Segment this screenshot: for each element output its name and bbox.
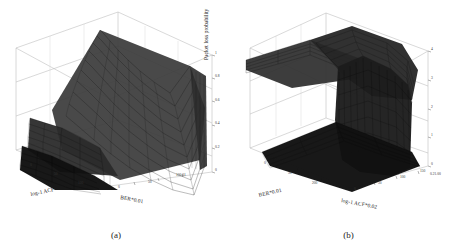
- xtick-b-left-1: 50: [288, 171, 292, 175]
- ztick-b-2: 2: [431, 105, 433, 109]
- figure-container: Packet loss probability log-1 ACF*0.02 B…: [0, 0, 465, 243]
- xtick-a-right-1: 50: [148, 180, 152, 184]
- xtick-b-left-0: 0: [264, 161, 266, 165]
- ztick-a-0: 0: [215, 168, 217, 172]
- xtick-a-right-2: 100.01: [176, 173, 186, 177]
- ztick-a-1: 0.2: [215, 145, 220, 149]
- xtick-b-right-0: 0: [354, 187, 356, 191]
- ztick-a-4: 0.8: [215, 74, 220, 78]
- mesh-surface-a: [20, 30, 207, 195]
- ztick-a-3: 0.6: [215, 98, 220, 102]
- mesh-surface-b: [246, 26, 420, 192]
- ztick-a-5: 1: [215, 51, 217, 55]
- xtick-a-right-0: 0: [118, 185, 120, 189]
- ztick-b-1: 1: [431, 133, 433, 137]
- panel-b: Packet delay BER*0.01 log-1 ACF*0.02 0 1…: [232, 0, 465, 243]
- surface-plot-b: [232, 0, 465, 243]
- ztick-marks-b: [428, 51, 431, 167]
- surface-plot-a: [0, 0, 232, 243]
- panel-caption-a: (a): [0, 230, 232, 240]
- ztick-b-4: 4: [431, 47, 433, 51]
- xtick-b-right-2: 100: [400, 175, 405, 179]
- xtick-b-right-1: 50: [378, 181, 382, 185]
- xtick-b-right-4: 0.21.00: [430, 172, 441, 176]
- ztick-marks-a: [212, 55, 215, 173]
- panel-a: Packet loss probability log-1 ACF*0.02 B…: [0, 0, 232, 243]
- xtick-b-right-3: 150: [420, 169, 425, 173]
- xtick-a-left-1: 50: [54, 172, 58, 176]
- ztick-b-0: 0: [431, 162, 433, 166]
- xtick-a-left-0: 0: [30, 163, 32, 167]
- panel-caption-b: (b): [232, 230, 465, 240]
- ztick-b-3: 3: [431, 76, 433, 80]
- xtick-a-left-2: 100: [78, 181, 83, 185]
- xtick-b-left-2: 200: [312, 181, 317, 185]
- ztick-a-2: 0.4: [215, 121, 220, 125]
- zaxis-title-a: Packet loss probability: [203, 9, 209, 60]
